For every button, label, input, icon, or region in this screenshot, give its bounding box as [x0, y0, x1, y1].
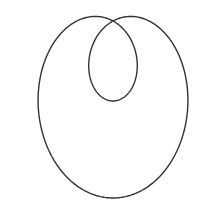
- limacon-curve: [38, 16, 188, 198]
- limacon-diagram: [0, 0, 217, 210]
